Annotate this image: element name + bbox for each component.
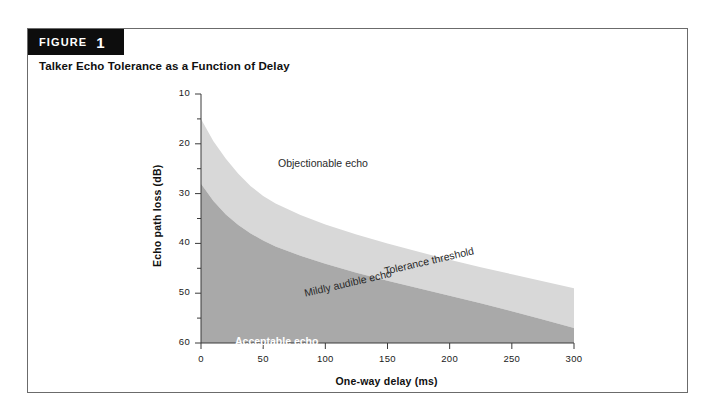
x-axis-tick-label: 250 — [494, 353, 530, 364]
y-axis-tick-label: 50 — [164, 286, 190, 297]
x-axis-tick-label: 150 — [370, 353, 406, 364]
chart-plot-area: Echo path loss (dB) One-way delay (ms) 1… — [28, 29, 689, 394]
x-axis-tick-label: 300 — [556, 353, 592, 364]
figure-panel: FIGURE 1 Talker Echo Tolerance as a Func… — [27, 28, 688, 393]
x-axis-tick-label: 200 — [432, 353, 468, 364]
y-axis-tick-label: 30 — [164, 187, 190, 198]
y-axis-tick-label: 40 — [164, 236, 190, 247]
x-axis-title: One-way delay (ms) — [336, 375, 438, 387]
x-axis-tick-label: 0 — [183, 353, 219, 364]
x-axis-tick-label: 50 — [245, 353, 281, 364]
echo-tolerance-area-chart — [28, 29, 689, 394]
x-axis-tick-label: 100 — [307, 353, 343, 364]
region-label-acceptable: Acceptable echo — [235, 335, 318, 347]
y-axis-title: Echo path loss (dB) — [151, 164, 163, 266]
region-label-objectionable: Objectionable echo — [278, 157, 368, 169]
y-axis-tick-label: 10 — [164, 87, 190, 98]
y-axis-tick-label: 60 — [164, 336, 190, 347]
y-axis-tick-label: 20 — [164, 137, 190, 148]
regions-group — [201, 94, 574, 343]
